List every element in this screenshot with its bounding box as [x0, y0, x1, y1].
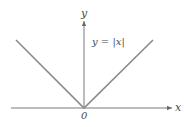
- chart-svg: y x 0 y = |x|: [0, 0, 184, 127]
- equation-annotation: y = |x|: [91, 36, 125, 48]
- origin-label: 0: [81, 110, 88, 121]
- absolute-value-graph: y x 0 y = |x|: [0, 0, 184, 127]
- x-axis-label: x: [175, 101, 182, 114]
- y-axis-label: y: [80, 7, 88, 20]
